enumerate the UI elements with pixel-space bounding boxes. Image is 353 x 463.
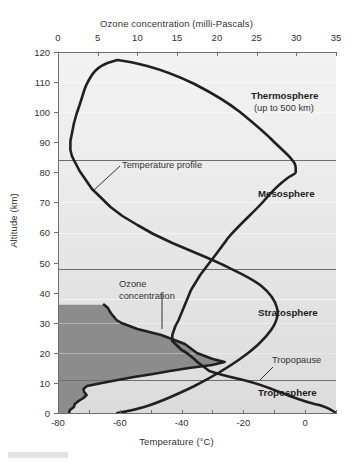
tick-left	[54, 112, 58, 113]
top-tick-label: 20	[212, 32, 223, 43]
tick-left	[54, 413, 58, 414]
bottom-tick-label: -60	[113, 417, 127, 428]
left-tick-label: 40	[20, 287, 50, 298]
tick-left	[54, 142, 58, 143]
left-tick-label: 90	[20, 137, 50, 148]
top-tick-label: 5	[95, 32, 100, 43]
left-tick-label: 80	[20, 167, 50, 178]
leader-temperature-profile	[94, 166, 120, 190]
layer-label-stratosphere: Stratosphere	[258, 307, 318, 318]
tick-left	[54, 293, 58, 294]
footer-artifact	[8, 452, 68, 458]
tick-left	[54, 353, 58, 354]
axis-line-top	[58, 52, 336, 53]
layer-label-mesosphere: Mesosphere	[258, 188, 315, 199]
tick-bottom-minor	[151, 410, 152, 414]
tick-left	[54, 82, 58, 83]
tick-bottom-minor	[336, 410, 337, 414]
left-tick-label: 20	[20, 347, 50, 358]
tick-left	[54, 383, 58, 384]
layer-label-troposphere: Troposphere	[258, 387, 317, 398]
annotation-ozone-line2: concentration	[119, 291, 175, 301]
top-tick-label: 10	[132, 32, 143, 43]
tick-bottom	[305, 410, 306, 414]
layer-label-thermosphere: Thermosphere	[251, 90, 318, 101]
tick-bottom-minor	[274, 410, 275, 414]
tick-top	[58, 52, 59, 56]
left-tick-label: 50	[20, 257, 50, 268]
top-tick-label: 30	[291, 32, 302, 43]
tick-left	[54, 172, 58, 173]
left-tick-label: 100	[20, 107, 50, 118]
tick-left	[54, 202, 58, 203]
left-tick-label: 30	[20, 317, 50, 328]
top-axis-title: Ozone concentration (milli-Pascals)	[0, 18, 353, 29]
top-tick-label: 0	[55, 32, 60, 43]
axis-line-left	[58, 52, 59, 413]
bottom-tick-label: 0	[302, 417, 307, 428]
tick-top	[257, 52, 258, 56]
tick-left	[54, 232, 58, 233]
left-tick-label: 0	[20, 407, 50, 418]
tick-top	[177, 52, 178, 56]
annotation-temperature-profile: Temperature profile	[122, 160, 202, 172]
tick-left	[54, 52, 58, 53]
tick-left	[54, 323, 58, 324]
bottom-tick-label: -80	[51, 417, 65, 428]
annotation-ozone-concentration: Ozone concentration	[119, 279, 175, 302]
bottom-tick-label: -40	[175, 417, 189, 428]
tick-top	[98, 52, 99, 56]
left-tick-label: 70	[20, 197, 50, 208]
tick-bottom	[120, 410, 121, 414]
tick-top	[217, 52, 218, 56]
left-tick-label: 120	[20, 47, 50, 58]
left-tick-label: 10	[20, 377, 50, 388]
tick-top	[137, 52, 138, 56]
chart-figure: Ozone concentration (milli-Pascals) Temp…	[0, 0, 353, 463]
top-tick-label: 35	[331, 32, 342, 43]
tick-bottom-minor	[212, 410, 213, 414]
top-tick-label: 25	[251, 32, 262, 43]
tick-top	[336, 52, 337, 56]
tick-bottom	[243, 410, 244, 414]
annotation-ozone-line1: Ozone	[119, 279, 146, 289]
tick-left	[54, 263, 58, 264]
tick-bottom-minor	[89, 410, 90, 414]
left-tick-label: 110	[20, 77, 50, 88]
tick-top	[296, 52, 297, 56]
tick-bottom	[182, 410, 183, 414]
top-tick-label: 15	[172, 32, 183, 43]
leader-tropopause	[260, 367, 273, 380]
tick-bottom	[58, 410, 59, 414]
axis-line-bottom	[58, 413, 336, 414]
bottom-axis-title: Temperature (°C)	[0, 436, 353, 447]
bottom-tick-label: -20	[236, 417, 250, 428]
layer-sublabel-thermosphere: (up to 500 km)	[254, 103, 314, 113]
annotation-tropopause: Tropopause	[272, 355, 321, 367]
left-axis-title: Altitude (km)	[8, 176, 19, 266]
left-tick-label: 60	[20, 227, 50, 238]
